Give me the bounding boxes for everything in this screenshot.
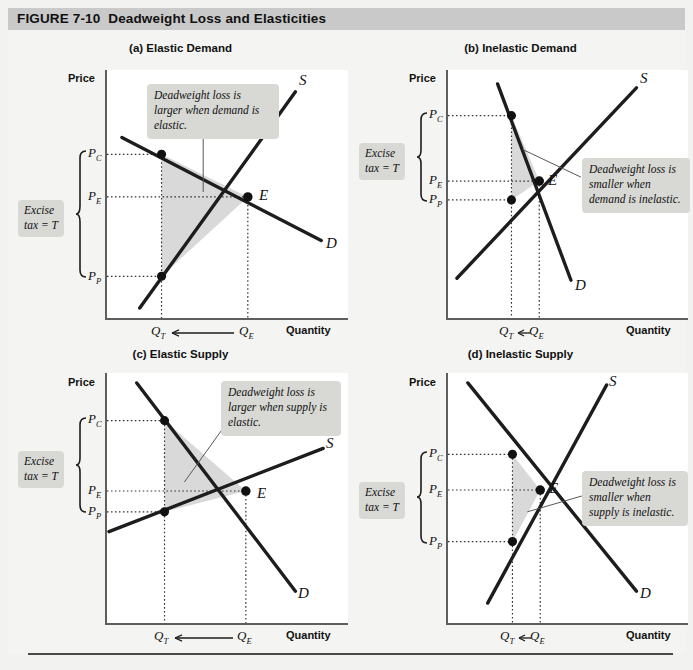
panel-b-equilibrium-label: E — [548, 172, 557, 189]
panel-c-supply-label: S — [326, 435, 334, 452]
panel-c-pc-label: PC — [88, 411, 102, 429]
panel-a-plot-area: S D E Deadweight loss is larger when dem… — [105, 70, 348, 320]
panel-a-demand-curve — [122, 137, 321, 240]
panel-b-price-axis-label: Price — [409, 72, 436, 84]
panel-a-pp-point — [157, 272, 166, 281]
panel-c-pp-point — [160, 507, 169, 516]
panel-d-title: (d) Inelastic Supply — [348, 348, 693, 360]
panel-a-tax-brace — [76, 150, 88, 278]
panel-d-plot-area: S D E Deadweight loss is smaller when su… — [446, 373, 688, 625]
panel-b-tax-brace — [417, 112, 429, 202]
panel-c-quantity-arrow — [171, 633, 235, 643]
panel-d-excise-tax-label: Excise tax = T — [359, 482, 405, 519]
panel-b-qt-label: QT — [499, 323, 513, 341]
panel-c-pe-label: PE — [88, 482, 101, 500]
panel-c-callout: Deadweight loss is larger when supply is… — [221, 381, 341, 436]
panel-b-quantity-arrow — [515, 328, 531, 338]
panel-d-callout: Deadweight loss is smaller when supply i… — [582, 471, 688, 526]
panel-a-pp-label: PP — [88, 268, 101, 286]
panel-d-quantity-arrow — [516, 633, 532, 643]
panel-c-qe-label: QE — [237, 628, 252, 646]
figure-header-text: FIGURE 7-10 Deadweight Loss and Elastici… — [17, 11, 326, 26]
panel-d-qt-label: QT — [500, 628, 514, 646]
panel-b-equilibrium-point — [534, 176, 544, 186]
panel-d-pe-label: PE — [429, 481, 442, 499]
panel-d-equilibrium-label: E — [549, 480, 558, 497]
panel-b-pc-label: PC — [429, 106, 443, 124]
panel-a-quantity-axis-label: Quantity — [286, 324, 331, 336]
panel-b-callout: Deadweight loss is smaller when demand i… — [582, 158, 690, 213]
panel-d-pp-label: PP — [429, 533, 442, 551]
panel-b-title: (b) Inelastic Demand — [348, 42, 693, 54]
figure-number: FIGURE 7-10 — [17, 11, 100, 26]
panel-a-callout: Deadweight loss is larger when demand is… — [147, 84, 279, 139]
panel-c-supply-curve — [109, 448, 323, 531]
panel-c-pp-label: PP — [88, 503, 101, 521]
panel-d-price-axis-label: Price — [409, 376, 436, 388]
panel-c-price-axis-label: Price — [68, 376, 95, 388]
panel-a-qe-label: QE — [239, 323, 254, 341]
panel-b-pc-point — [507, 111, 516, 120]
panel-c-excise-tax-label: Excise tax = T — [18, 451, 64, 488]
panel-b-plot-area: S D E Deadweight loss is smaller when de… — [446, 70, 688, 320]
panel-a-quantity-arrow — [168, 328, 236, 338]
panel-b-quantity-axis-label: Quantity — [626, 324, 671, 336]
panel-c-title: (c) Elastic Supply — [8, 348, 353, 360]
figure-header: FIGURE 7-10 Deadweight Loss and Elastici… — [8, 8, 685, 30]
panel-a-equilibrium-point — [243, 192, 253, 202]
panel-a-elastic-demand: (a) Elastic Demand Price Quantity S D E — [8, 42, 353, 342]
panel-d-qe-label: QE — [530, 628, 545, 646]
panel-a-pe-label: PE — [88, 188, 101, 206]
panel-d-pc-point — [508, 450, 517, 459]
panel-c-pc-point — [160, 416, 169, 425]
panel-b-pp-label: PP — [429, 191, 442, 209]
panel-a-title: (a) Elastic Demand — [8, 42, 353, 54]
panel-b-demand-label: D — [575, 277, 586, 294]
panel-d-inelastic-supply: (d) Inelastic Supply Price Quantity S D … — [348, 348, 693, 648]
panel-a-excise-tax-label: Excise tax = T — [18, 200, 64, 237]
panel-a-demand-label: D — [326, 235, 337, 252]
panel-a-price-axis-label: Price — [68, 72, 95, 84]
panel-c-qt-label: QT — [154, 628, 168, 646]
panel-c-tax-brace — [76, 417, 88, 513]
panel-c-quantity-axis-label: Quantity — [286, 629, 331, 641]
panel-d-demand-label: D — [640, 585, 651, 602]
panel-a-qt-label: QT — [151, 323, 165, 341]
panel-c-equilibrium-label: E — [257, 485, 266, 502]
panel-c-plot-area: S D E Deadweight loss is larger when sup… — [105, 373, 348, 625]
panel-b-pp-point — [507, 195, 516, 204]
figure-title: Deadweight Loss and Elasticities — [108, 11, 326, 26]
panel-d-supply-label: S — [609, 373, 617, 390]
panel-a-pc-label: PC — [88, 145, 102, 163]
panel-c-elastic-supply: (c) Elastic Supply Price Quantity S D E — [8, 348, 353, 648]
panel-d-pp-point — [508, 537, 517, 546]
panel-a-equilibrium-label: E — [259, 187, 268, 204]
panel-b-inelastic-demand: (b) Inelastic Demand Price Quantity S D … — [348, 42, 693, 342]
panel-b-pe-label: PE — [429, 172, 442, 190]
panel-c-equilibrium-point — [241, 486, 251, 496]
panel-c-demand-label: D — [298, 585, 309, 602]
panel-b-supply-label: S — [640, 70, 648, 87]
panel-b-excise-tax-label: Excise tax = T — [359, 143, 405, 180]
panel-a-supply-label: S — [299, 72, 307, 89]
panel-b-qe-label: QE — [529, 323, 544, 341]
figure-card: FIGURE 7-10 Deadweight Loss and Elastici… — [8, 8, 685, 654]
bottom-rule — [28, 653, 673, 655]
panel-a-pc-point — [157, 150, 166, 159]
panel-d-tax-brace — [417, 451, 429, 544]
panel-d-quantity-axis-label: Quantity — [626, 629, 671, 641]
panel-d-pc-label: PC — [429, 445, 443, 463]
panel-d-equilibrium-point — [535, 485, 545, 495]
